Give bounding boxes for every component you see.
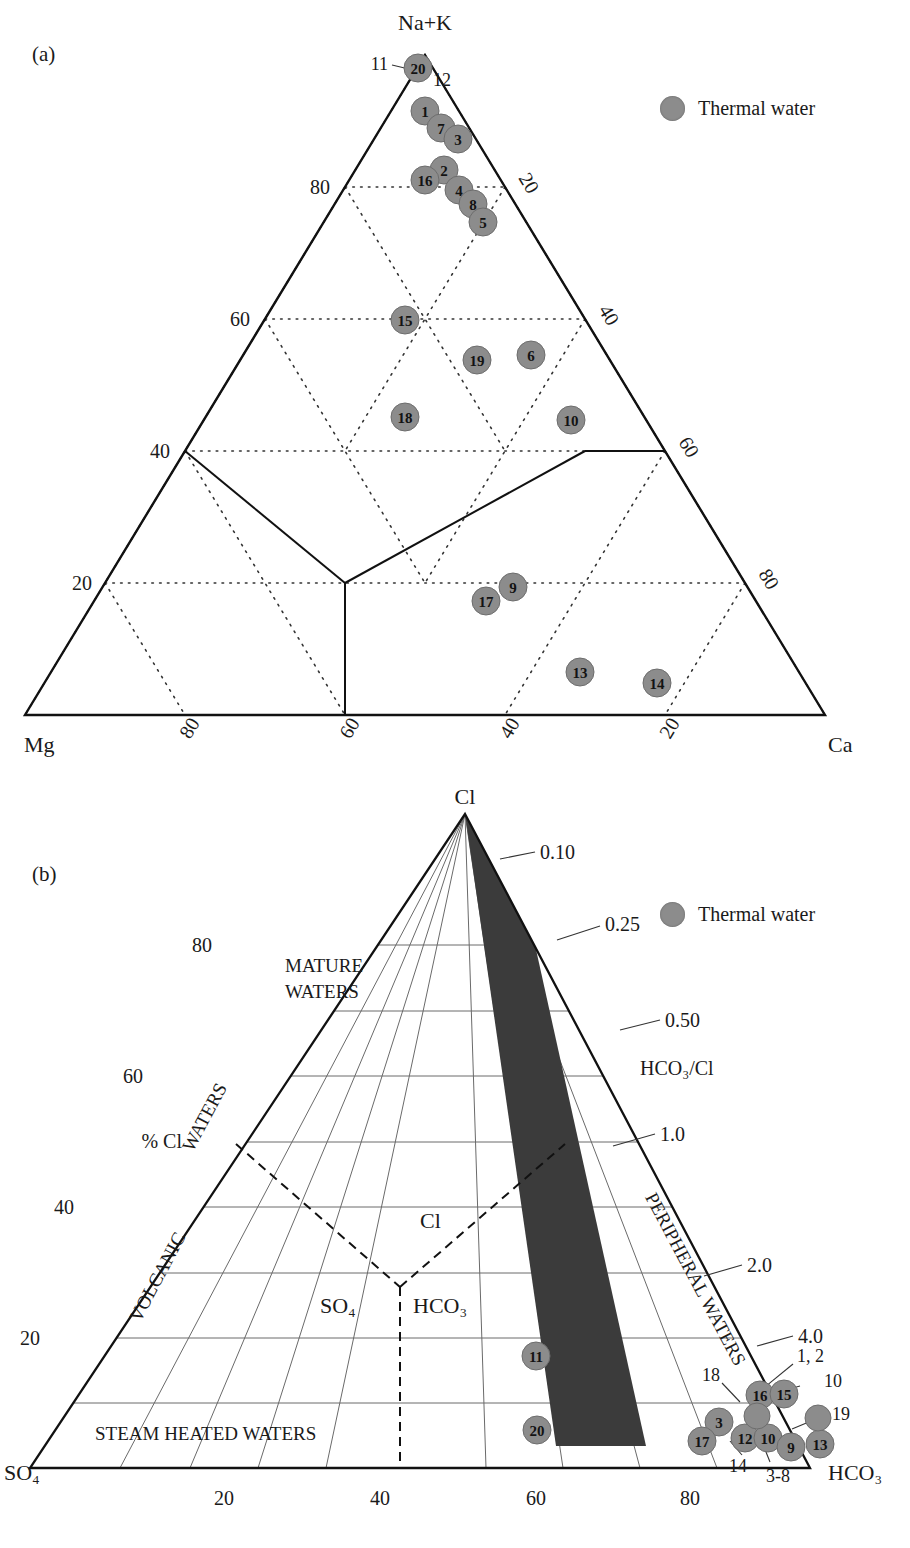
datapoint-label: 9 [787,1440,795,1456]
datapoint-20-b[interactable]: 20 [523,1416,551,1444]
left-tick-60-a: 60 [230,308,250,330]
datapoint-label: 2 [440,163,448,179]
callout-leader-18-b [722,1383,740,1402]
ratio-leader-050 [620,1020,660,1030]
bottom-tick-60-b: 60 [526,1487,546,1509]
datapoint-label: 11 [529,1349,543,1365]
datapoint-label: 13 [813,1437,828,1453]
zone-label-waters-volcanic: WATERS [178,1079,231,1154]
datapoint-label: 3 [715,1415,723,1431]
ratio-label-40: 4.0 [798,1325,823,1347]
datapoint-15-a[interactable]: 15 [391,306,419,334]
datapoint-unlabelled-b2[interactable] [805,1405,831,1431]
bottom-tick-40-b: 40 [370,1487,390,1509]
datapoint-6-a[interactable]: 6 [517,341,545,369]
center-label-cl: Cl [420,1208,441,1233]
vertex-label-so4: SO₄ [4,1460,40,1485]
datapoint-label: 10 [761,1431,776,1447]
datapoint-15-b[interactable]: 15 [770,1380,798,1408]
grid-lines-a [25,55,825,715]
datapoint-label: 1 [421,104,429,120]
datapoint-label: 13 [573,665,588,681]
ratio-leader-20 [704,1265,742,1276]
right-tick-80-a: 80 [755,565,784,593]
datapoint-label: 14 [650,676,666,692]
datapoint-20-a[interactable]: 20 [404,54,432,82]
datapoint-16-a[interactable]: 16 [411,166,439,194]
zone-label-mature-2: WATERS [285,981,359,1002]
panel-a-ternary-diagram: (a) Thermal water [0,0,910,790]
panel-b-ternary-diagram: (b) Thermal water [0,790,910,1548]
datapoint-17-b[interactable]: 17 [688,1427,716,1455]
datapoint-label: 18 [398,410,413,426]
zone-label-mature-1: MATURE [285,955,363,976]
bottom-tick-20-b: 20 [214,1487,234,1509]
field-boundaries-b [236,1144,565,1468]
bottom-tick-20-a: 20 [655,714,684,742]
vertex-label-hco3: HCO₃ [828,1460,882,1485]
vertex-label-na-k: Na+K [398,10,452,35]
bottom-tick-60-a: 60 [335,714,364,742]
panel-b-svg: Cl SO₄ HCO₃ 80 60 40 20 20 40 60 80 % Cl… [0,790,910,1548]
triangle-outline-a [25,55,825,715]
datapoint-18-a[interactable]: 18 [391,403,419,431]
bottom-tick-80-b: 80 [680,1487,700,1509]
callout-label-12: 12 [433,70,451,90]
left-tick-80-a: 80 [310,176,330,198]
callout-label-1-2-b: 1, 2 [797,1346,824,1366]
datapoint-17-a[interactable]: 17 [472,587,500,615]
datapoint-label: 7 [437,121,445,137]
callout-label-10-b: 10 [824,1371,842,1391]
datapoint-label: 12 [738,1431,753,1447]
vertex-label-mg: Mg [24,732,55,757]
vertex-label-cl: Cl [455,784,476,809]
datapoint-label: 10 [564,413,579,429]
datapoint-5-a[interactable]: 5 [469,208,497,236]
zone-label-volcanic: VOLCANIC [125,1229,190,1326]
axis-title-hco3-cl: HCO₃/Cl [640,1057,714,1079]
left-tick-20-b: 20 [20,1327,40,1349]
callout-label-11: 11 [371,54,388,74]
ratio-leader-025 [557,926,600,940]
zone-label-steam-heated-waters: STEAM HEATED WATERS [95,1423,316,1444]
right-tick-20-a: 20 [515,169,544,197]
callout-label-3-8-b: 3-8 [766,1466,790,1486]
datapoint-9-b[interactable]: 9 [777,1433,805,1461]
ratio-label-20: 2.0 [747,1254,772,1276]
mature-waters-wedge [465,814,646,1446]
datapoint-label: 5 [479,215,487,231]
datapoint-label: 6 [527,348,535,364]
vertex-label-ca: Ca [828,732,853,757]
datapoint-9-a[interactable]: 9 [499,573,527,601]
datapoint-label: 16 [753,1388,769,1404]
datapoint-label: 15 [777,1387,792,1403]
datapoint-label: 9 [509,580,517,596]
datapoint-10-a[interactable]: 10 [557,406,585,434]
datapoint-label: 19 [470,353,485,369]
datapoint-unlabelled-b1[interactable] [744,1403,770,1429]
datapoint-13-a[interactable]: 13 [566,658,594,686]
left-tick-20-a: 20 [72,572,92,594]
datapoint-13-b[interactable]: 13 [806,1430,834,1458]
datapoint-11-b[interactable]: 11 [522,1342,550,1370]
datapoint-label: 15 [398,313,413,329]
panel-a-svg: Na+K Mg Ca 80 60 40 20 20 40 60 80 80 60… [0,0,910,790]
ratio-leader-010 [500,852,535,859]
datapoint-label: 16 [418,173,434,189]
datapoint-3-a[interactable]: 3 [444,125,472,153]
datapoint-19-a[interactable]: 19 [463,346,491,374]
ratio-label-10: 1.0 [660,1123,685,1145]
left-tick-80-b: 80 [192,934,212,956]
axis-title-percent-cl: % Cl [141,1130,182,1152]
datapoint-label: 3 [454,132,462,148]
zone-label-peripheral-waters: PERIPHERAL WATERS [641,1189,750,1369]
datapoint-label: 17 [479,594,495,610]
datapoint-label: 17 [695,1434,711,1450]
right-tick-40-a: 40 [595,301,624,329]
datapoint-label: 20 [411,61,426,77]
datapoint-label: 20 [530,1423,545,1439]
center-label-hco3: HCO₃ [413,1293,467,1318]
callout-label-19-b: 19 [832,1404,850,1424]
ratio-leader-40 [757,1336,793,1346]
datapoint-14-a[interactable]: 14 [643,669,671,697]
